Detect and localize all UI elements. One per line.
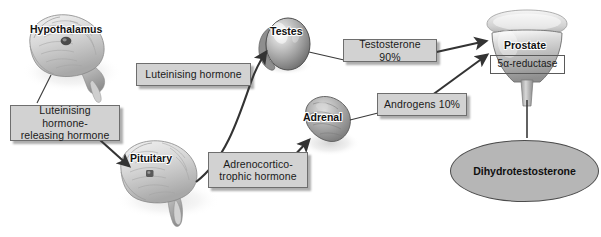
arrow-lhrh-to-pituitary (100, 140, 129, 166)
arrow-testosterone-to-prostate (432, 41, 486, 53)
label-androgens-10-percent: Androgens 10% (377, 93, 467, 116)
adrenal-illustration (300, 96, 378, 156)
hypothalamus-illustration (22, 15, 122, 103)
label-testosterone-90-percent: Testosterone 90% (343, 39, 437, 62)
prostate-illustration (487, 10, 567, 138)
pituitary-illustration (116, 141, 220, 227)
testes-illustration (259, 18, 344, 75)
label-5-alpha-reductase: 5α-reductase (490, 55, 565, 74)
label-luteinising-hormone: Luteinising hormone (136, 63, 251, 86)
node-dihydrotestosterone: Dihydrotestosterone (450, 140, 599, 202)
label-luteinising-hormone-releasing-hormone: Luteinising hormone- releasing hormone (10, 105, 120, 141)
diagram-canvas: Hypothalamus Pituitary Testes Adrenal Pr… (0, 0, 601, 237)
label-adrenocorticotrophic-hormone: Adrenocortico- trophic hormone (208, 152, 308, 188)
